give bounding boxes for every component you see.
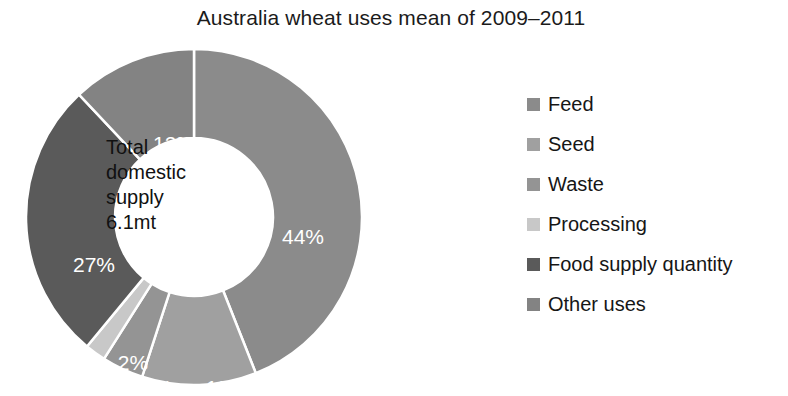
legend-swatch-icon: [527, 258, 540, 271]
legend-item-processing[interactable]: Processing: [527, 204, 777, 244]
legend-swatch-icon: [527, 98, 540, 111]
chart-legend: FeedSeedWasteProcessingFood supply quant…: [527, 84, 777, 324]
donut-chart: 44%11%4%2%27%12%: [24, 47, 364, 387]
legend-item-label: Feed: [548, 94, 594, 114]
legend-swatch-icon: [527, 218, 540, 231]
legend-item-food-supply-quantity[interactable]: Food supply quantity: [527, 244, 777, 284]
legend-item-label: Waste: [548, 174, 604, 194]
slice-value-label-waste: 4%: [142, 376, 172, 387]
legend-swatch-icon: [527, 138, 540, 151]
slice-value-label-processing: 2%: [118, 351, 148, 374]
legend-item-feed[interactable]: Feed: [527, 84, 777, 124]
legend-item-label: Food supply quantity: [548, 254, 733, 274]
legend-item-waste[interactable]: Waste: [527, 164, 777, 204]
legend-item-label: Other uses: [548, 294, 646, 314]
legend-item-label: Processing: [548, 214, 647, 234]
legend-swatch-icon: [527, 178, 540, 191]
slice-value-label-food-supply-quantity: 27%: [73, 253, 115, 276]
chart-title: Australia wheat uses mean of 2009–2011: [0, 6, 785, 30]
legend-item-seed[interactable]: Seed: [527, 124, 777, 164]
chart-figure: Australia wheat uses mean of 2009–2011 4…: [0, 0, 788, 396]
legend-item-label: Seed: [548, 134, 595, 154]
donut-slices: [26, 49, 362, 385]
donut-chart-svg: 44%11%4%2%27%12%: [24, 47, 364, 387]
slice-value-label-feed: 44%: [282, 225, 324, 248]
legend-item-other-uses[interactable]: Other uses: [527, 284, 777, 324]
slice-value-label-seed: 11%: [206, 376, 246, 387]
slice-value-label-other-uses: 12%: [153, 132, 195, 155]
legend-swatch-icon: [527, 298, 540, 311]
